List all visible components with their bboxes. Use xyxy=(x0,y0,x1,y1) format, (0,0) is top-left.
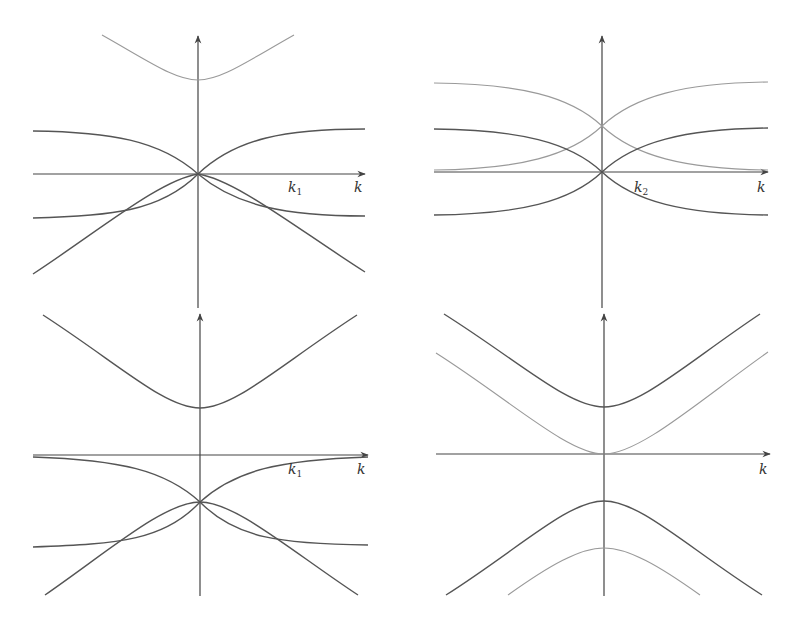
upper-band-light xyxy=(436,352,768,454)
figure-canvas: k1 k k2 k k1 k xyxy=(0,0,792,623)
linear-band-right xyxy=(198,174,365,272)
marker-label-k1: k1 xyxy=(288,461,302,479)
light-band-ascending xyxy=(434,82,768,170)
flat-band-upper-right xyxy=(200,457,368,502)
marker-label-k2: k2 xyxy=(634,179,648,197)
linear-band-left xyxy=(45,502,200,595)
flat-band-lower-left xyxy=(33,174,198,218)
panel-bottom-right: k xyxy=(436,314,770,596)
flat-band-upper-left xyxy=(33,457,200,502)
x-axis-label: k xyxy=(357,461,365,477)
panel-top-right: k2 k xyxy=(434,36,768,308)
linear-band-left xyxy=(33,174,198,274)
flat-band-lower-right xyxy=(198,174,365,216)
x-axis-label: k xyxy=(759,461,767,477)
flat-band-upper-left xyxy=(33,131,198,174)
x-axis-label: k xyxy=(354,179,362,195)
panel-bottom-left: k1 k xyxy=(33,314,368,596)
x-axis-label: k xyxy=(757,179,765,195)
panel-top-left: k1 k xyxy=(33,35,365,308)
linear-band-right xyxy=(200,502,358,595)
flat-band-upper-right xyxy=(198,129,365,174)
marker-label-k1: k1 xyxy=(288,179,302,197)
